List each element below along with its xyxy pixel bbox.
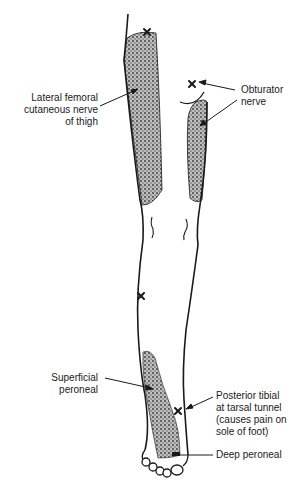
x-marker-tarsal-tunnel <box>175 408 181 414</box>
knee-creases <box>151 217 187 240</box>
deep-peroneal-zone <box>172 452 180 456</box>
x-marker-obturator <box>189 81 195 87</box>
x-marker-peroneal <box>138 293 144 299</box>
label-obturator: Obturator nerve <box>241 84 283 108</box>
obturator-shaded-area <box>187 100 207 202</box>
label-deep-peroneal: Deep peroneal <box>216 449 282 461</box>
label-lateral-femoral: Lateral femoral cutaneous nerve of thigh <box>8 92 98 128</box>
label-posterior-tibial: Posterior tibial at tarsal tunnel (cause… <box>216 390 287 438</box>
label-superficial-peroneal: Superficial peroneal <box>30 372 98 396</box>
superficial-peroneal-shaded-area <box>143 351 180 458</box>
